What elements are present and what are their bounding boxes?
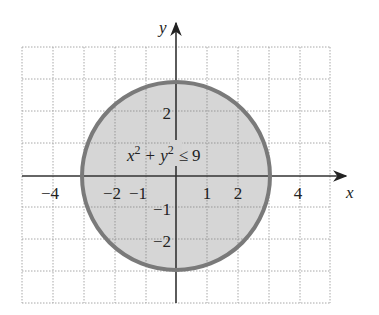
x-tick-label: −4: [41, 184, 60, 203]
x-tick-label: −1: [129, 184, 147, 203]
y-tick-label: 2: [163, 104, 172, 123]
x-axis-label: x: [345, 183, 354, 202]
x-tick-label: 2: [234, 184, 243, 203]
x-tick-label: −2: [103, 184, 121, 203]
disk-region-diagram: y x −4 −2 −1 1 2 4 2 −1 −2 x2+y2≤9: [0, 0, 379, 315]
y-tick-label: −1: [153, 200, 171, 219]
y-tick-label: −2: [153, 232, 171, 251]
x-tick-label: 1: [203, 184, 212, 203]
y-axis-label: y: [157, 18, 167, 37]
x-tick-label: 4: [294, 184, 303, 203]
